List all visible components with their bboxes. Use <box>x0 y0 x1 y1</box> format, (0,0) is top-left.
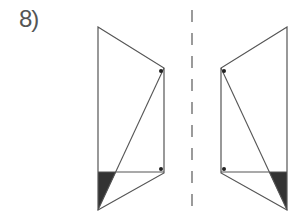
left-shape <box>98 27 164 210</box>
left-angle-dot-bottom <box>159 167 163 171</box>
left-angle-dot-top <box>159 69 163 73</box>
right-angle-dot-top <box>222 69 226 73</box>
right-angle-dot-bottom <box>222 167 226 171</box>
right-shape <box>221 27 287 210</box>
left-diagonal <box>98 68 164 210</box>
reflection-diagram <box>0 0 295 213</box>
right-diagonal <box>221 68 287 210</box>
